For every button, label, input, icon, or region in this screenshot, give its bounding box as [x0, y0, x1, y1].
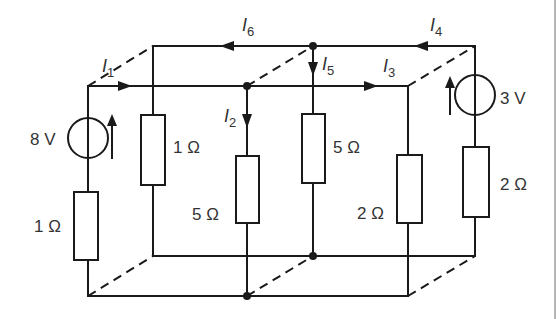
- bottom-rails: [88, 256, 475, 296]
- resistor-front-left: [74, 192, 98, 260]
- label-r-front-middle: 5 Ω: [192, 205, 219, 224]
- node-back-bottom-middle: [309, 252, 317, 260]
- label-r-back-middle: 5 Ω: [333, 138, 360, 157]
- arrow-i4-icon: [414, 41, 428, 51]
- current-label-i4: I4: [430, 15, 442, 39]
- arrow-i5-icon: [308, 62, 318, 76]
- back-right-branch: 3 V 2 Ω: [445, 46, 527, 256]
- current-label-i6: I6: [242, 15, 254, 39]
- label-r-back-left: 1 Ω: [173, 138, 200, 157]
- resistor-back-left: [141, 115, 165, 185]
- label-r-front-right: 2 Ω: [357, 204, 384, 223]
- resistor-back-middle: [302, 114, 325, 183]
- current-label-i5: I5: [322, 54, 334, 78]
- label-3v: 3 V: [500, 89, 526, 108]
- source-arrow-up-icon: [107, 114, 117, 126]
- node-front-top-middle: [243, 82, 251, 90]
- arrow-i1-icon: [118, 81, 132, 91]
- node-back-top-middle: [309, 42, 317, 50]
- label-r-front-left: 1 Ω: [34, 217, 61, 236]
- arrow-i2-icon: [242, 114, 252, 128]
- current-label-i2: I2: [224, 106, 236, 130]
- resistor-front-right: [397, 155, 422, 223]
- top-depth-edges: [88, 46, 475, 86]
- node-front-bottom-middle: [243, 292, 251, 300]
- resistor-back-right: [463, 147, 489, 217]
- label-r-back-right: 2 Ω: [500, 175, 527, 194]
- resistor-front-middle: [236, 156, 259, 223]
- arrow-i3-icon: [364, 81, 378, 91]
- front-left-branch: 8 V 1 Ω: [30, 86, 117, 296]
- label-8v: 8 V: [30, 130, 56, 149]
- circuit-diagram: 8 V 1 Ω 1 Ω 5 Ω 5 Ω 2 Ω 3: [0, 0, 559, 319]
- back-left-branch: 1 Ω: [141, 46, 200, 256]
- front-right-branch: 2 Ω: [357, 86, 422, 296]
- current-label-i3: I3: [383, 56, 395, 80]
- arrow-i6-icon: [220, 41, 234, 51]
- source-arrow-up-icon: [445, 76, 455, 88]
